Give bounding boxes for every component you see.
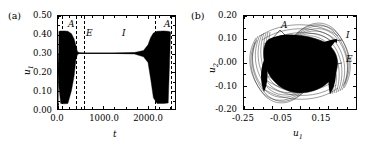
panel-a-ytick-2: 0.30 [18, 49, 52, 58]
panel-b-x-axis-title: u1 [293, 129, 303, 140]
panel-b-ytick-1: 0.10 [203, 34, 237, 43]
panel-b-annotation-E: E [346, 55, 353, 64]
panel-a-ytick-4: 0.10 [18, 87, 52, 96]
panel-b-xtick-2: 0.15 [303, 114, 339, 123]
panel-a-x-axis-title: t [113, 130, 117, 139]
panel-a: (a) u1 0.50 0.40 0.30 0.20 0.10 0.00 0.0… [0, 0, 186, 152]
panel-a-xtick-0: 0.0 [42, 114, 72, 123]
panel-a-xtick-1: 1000.0 [84, 114, 124, 123]
panel-b-xtick-1: -0.05 [263, 114, 299, 123]
panel-b: (b) u2 0.20 0.10 0.00 -0.10 -0.20 -0.25 … [185, 0, 371, 152]
figure-root: (a) u1 0.50 0.40 0.30 0.20 0.10 0.00 0.0… [0, 0, 371, 152]
panel-a-ytick-1: 0.40 [18, 30, 52, 39]
panel-b-xtick-0: -0.25 [225, 114, 261, 123]
panel-b-ytick-3: -0.10 [199, 82, 237, 91]
panel-b-ytick-0: 0.20 [203, 11, 237, 20]
panel-a-ytick-3: 0.20 [18, 68, 52, 77]
panel-b-annotation-I: I [346, 31, 350, 40]
panel-a-xtick-2: 2000.0 [128, 114, 168, 123]
panel-a-timeseries [58, 16, 175, 109]
panel-a-ytick-0: 0.50 [18, 11, 52, 20]
panel-b-annotation-A: A [281, 21, 288, 30]
panel-b-ytick-2: 0.00 [203, 58, 237, 67]
panel-b-phase-portrait [244, 16, 356, 109]
